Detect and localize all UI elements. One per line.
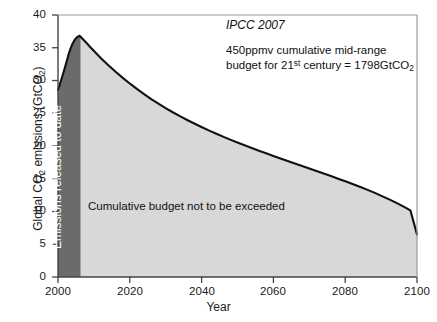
x-tick-label: 2060 [243,285,303,297]
y-tick-label: 0 [20,270,46,282]
y-axis-ticks [52,15,58,277]
chart-figure: 40 35 30 25 20 15 10 5 0 2000 2020 2040 … [0,0,437,322]
annotation-budget-line2: budget for 21st century = 1798GtCO2 [226,58,416,74]
x-tick-label: 2020 [100,285,160,297]
y-tick-label: 40 [20,8,46,20]
x-tick-label: 2100 [387,285,437,297]
cumulative-budget-area-label: Cumulative budget not to be exceeded [88,200,285,212]
annotation-budget-note: 450ppmv cumulative mid-range budget for … [226,43,416,74]
emissions-released-band [58,36,81,277]
y-axis-title: Global CO2 emissions (GtCO2) [31,34,46,264]
x-tick-label: 2000 [28,285,88,297]
x-tick-label: 2040 [172,285,232,297]
x-axis-title: Year [0,300,437,314]
x-tick-label: 2080 [315,285,375,297]
annotation-source-label: IPCC 2007 [226,18,416,32]
chart-annotation: IPCC 2007 450ppmv cumulative mid-range b… [226,18,416,74]
x-axis-ticks [58,277,417,283]
annotation-budget-line1: 450ppmv cumulative mid-range [226,43,416,58]
